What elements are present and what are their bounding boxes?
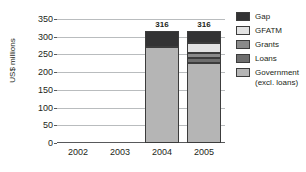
y-axis-title: US$ millions — [8, 21, 17, 101]
legend-item[interactable]: Government (excl. loans) — [236, 68, 306, 88]
y-tick-label: 200 — [38, 68, 53, 77]
x-tick-label: 2002 — [56, 148, 100, 157]
bar-segment-loans[interactable] — [187, 58, 221, 63]
legend-label: Grants — [255, 40, 279, 50]
y-tick-mark — [54, 143, 57, 144]
legend-label: GFATM — [255, 26, 282, 36]
bar-segment-gfatm[interactable] — [187, 43, 221, 53]
bar-value-label: 316 — [184, 20, 224, 29]
y-tick-mark — [54, 19, 57, 20]
y-tick-mark — [54, 90, 57, 91]
y-tick-label: 350 — [38, 15, 53, 24]
legend-label: Loans — [255, 54, 277, 64]
legend-item[interactable]: Grants — [236, 40, 306, 51]
y-tick-label: 300 — [38, 33, 53, 42]
legend: GapGFATMGrantsLoansGovernment (excl. loa… — [236, 12, 306, 91]
legend-swatch — [236, 26, 250, 35]
legend-item[interactable]: Loans — [236, 54, 306, 65]
y-tick-mark — [54, 72, 57, 73]
bar-value-label: 316 — [142, 20, 182, 29]
legend-item[interactable]: Gap — [236, 12, 306, 23]
bar-segment-government-excl-loans[interactable] — [145, 47, 179, 143]
legend-swatch — [236, 68, 250, 77]
legend-swatch — [236, 40, 250, 49]
bar-2004[interactable] — [145, 31, 179, 143]
y-tick-label: 0 — [48, 139, 53, 148]
bar-segment-gap[interactable] — [187, 31, 221, 43]
chart-root: US$ millions 350300250200150100500 31631… — [0, 0, 306, 172]
x-tick-label: 2005 — [182, 148, 226, 157]
y-tick-mark — [54, 54, 57, 55]
y-tick-mark — [54, 37, 57, 38]
x-tick-label: 2003 — [98, 148, 142, 157]
bar-segment-gap[interactable] — [145, 31, 179, 47]
legend-swatch — [236, 54, 250, 63]
bar-segment-grants[interactable] — [187, 53, 221, 58]
y-tick-label: 150 — [38, 86, 53, 95]
y-tick-label: 100 — [38, 104, 53, 113]
legend-swatch — [236, 12, 250, 21]
bar-segment-government-excl-loans[interactable] — [187, 63, 221, 143]
legend-label: Government (excl. loans) — [255, 68, 299, 87]
legend-item[interactable]: GFATM — [236, 26, 306, 37]
y-tick-mark — [54, 125, 57, 126]
y-tick-label: 50 — [43, 121, 53, 130]
plot-area: 350300250200150100500 316316 20022003200… — [57, 19, 225, 143]
legend-label: Gap — [255, 12, 270, 22]
y-tick-label: 250 — [38, 50, 53, 59]
bar-2005[interactable] — [187, 31, 221, 143]
y-tick-mark — [54, 108, 57, 109]
x-tick-label: 2004 — [140, 148, 184, 157]
